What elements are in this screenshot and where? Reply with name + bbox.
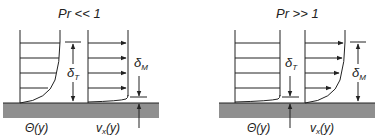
velocity-profile (305, 30, 345, 103)
thermal-thickness-label: δT (285, 55, 298, 72)
velocity-profile (88, 30, 128, 103)
panel-low-prandtl: Pr << 1 δT (3, 6, 159, 136)
panel-high-prandtl: Pr >> 1 δT (219, 6, 375, 136)
momentum-thickness-label: δM (134, 55, 148, 72)
panel-title: Pr >> 1 (276, 6, 319, 21)
solid-wall (3, 103, 159, 118)
prandtl-boundary-layer-diagram: Pr << 1 δT (0, 0, 378, 138)
momentum-thickness-dimension: δM (350, 42, 371, 101)
solid-wall (219, 103, 375, 118)
temperature-profile (235, 30, 280, 103)
temperature-profile (20, 30, 60, 103)
temperature-label: Θ(y) (247, 121, 270, 135)
velocity-label: vx(y) (310, 121, 334, 136)
velocity-label: vx(y) (96, 121, 120, 136)
thermal-thickness-dimension: δT (65, 42, 82, 101)
temperature-label: Θ(y) (25, 121, 48, 135)
velocity-profile-curve (88, 95, 128, 102)
panel-title: Pr << 1 (58, 6, 101, 21)
temperature-profile-curve (235, 95, 280, 102)
